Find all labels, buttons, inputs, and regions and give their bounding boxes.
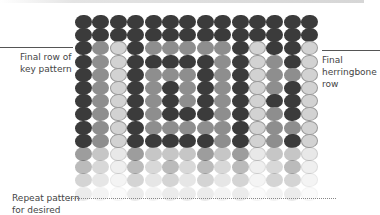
bead <box>284 81 301 95</box>
bead <box>266 15 283 29</box>
bead <box>162 160 179 174</box>
bead <box>92 147 109 161</box>
bead <box>145 107 162 121</box>
bead <box>301 147 318 161</box>
bead <box>232 41 249 55</box>
bead <box>145 134 162 148</box>
bead <box>92 160 109 174</box>
bead <box>214 121 231 135</box>
bead <box>197 173 214 187</box>
bead <box>232 134 249 148</box>
bead <box>249 28 266 42</box>
bead <box>266 147 283 161</box>
bead <box>92 68 109 82</box>
bead <box>232 28 249 42</box>
bead <box>284 68 301 82</box>
bead <box>127 147 144 161</box>
bead <box>249 147 266 161</box>
bead <box>301 160 318 174</box>
bead <box>110 81 127 95</box>
bead <box>197 147 214 161</box>
bead <box>249 107 266 121</box>
bead <box>179 94 196 108</box>
bead <box>145 173 162 187</box>
bead <box>110 28 127 42</box>
bead <box>284 134 301 148</box>
bead <box>214 41 231 55</box>
bead <box>145 160 162 174</box>
bead <box>266 81 283 95</box>
bead <box>301 15 318 29</box>
bead <box>284 160 301 174</box>
repeat-pattern-label: Repeat pattern for desired <box>12 192 80 215</box>
bead <box>179 160 196 174</box>
bead <box>266 41 283 55</box>
bead <box>232 81 249 95</box>
bead <box>110 94 127 108</box>
bead <box>249 68 266 82</box>
bead <box>145 55 162 69</box>
bead <box>75 160 92 174</box>
bead <box>232 147 249 161</box>
bead <box>266 121 283 135</box>
bead <box>110 68 127 82</box>
bead <box>162 147 179 161</box>
herringbone-label: Final herringbone row <box>322 54 377 90</box>
bead <box>232 121 249 135</box>
bead <box>301 173 318 187</box>
bead <box>127 55 144 69</box>
bead <box>249 160 266 174</box>
bead <box>249 134 266 148</box>
bead <box>75 41 92 55</box>
bead <box>232 68 249 82</box>
bead <box>162 55 179 69</box>
bead <box>92 55 109 69</box>
bead <box>232 173 249 187</box>
bead <box>127 68 144 82</box>
bead <box>214 94 231 108</box>
bead <box>197 41 214 55</box>
bead <box>162 134 179 148</box>
bead <box>266 28 283 42</box>
bead <box>110 147 127 161</box>
bead <box>284 28 301 42</box>
bead <box>92 121 109 135</box>
bead <box>179 134 196 148</box>
bead <box>197 15 214 29</box>
bead <box>301 55 318 69</box>
bead <box>92 173 109 187</box>
bead <box>179 107 196 121</box>
bead <box>179 68 196 82</box>
bead <box>214 147 231 161</box>
bead <box>179 147 196 161</box>
bead <box>162 28 179 42</box>
bead <box>197 55 214 69</box>
bead <box>92 41 109 55</box>
bead <box>249 15 266 29</box>
bead <box>284 121 301 135</box>
bead <box>127 94 144 108</box>
bead <box>179 15 196 29</box>
bead <box>110 173 127 187</box>
bead <box>284 41 301 55</box>
bead <box>197 107 214 121</box>
bead <box>145 147 162 161</box>
bead <box>145 68 162 82</box>
bead <box>92 134 109 148</box>
key-pattern-label: Final row of key pattern <box>20 51 72 75</box>
bead <box>197 134 214 148</box>
key-pattern-leader-line <box>0 47 73 48</box>
bead <box>284 173 301 187</box>
bead <box>75 81 92 95</box>
bead <box>214 55 231 69</box>
bead <box>214 160 231 174</box>
bead <box>110 160 127 174</box>
bead <box>127 107 144 121</box>
bead <box>179 28 196 42</box>
bead <box>301 94 318 108</box>
bead <box>266 94 283 108</box>
bead <box>214 28 231 42</box>
bead <box>179 41 196 55</box>
bead <box>162 121 179 135</box>
bead <box>110 121 127 135</box>
